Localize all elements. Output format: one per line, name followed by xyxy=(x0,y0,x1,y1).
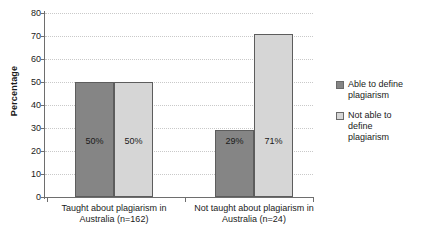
bar-value-label: 50% xyxy=(115,136,152,146)
x-axis-tick-mark xyxy=(313,197,314,202)
bar[interactable]: 29% xyxy=(215,130,254,197)
y-axis-tick-label: 40 xyxy=(31,100,41,110)
y-axis-tick-mark xyxy=(41,82,45,83)
x-axis-group-label: Not taught about plagiarism inAustralia … xyxy=(184,203,324,225)
y-axis-tick-mark xyxy=(41,13,45,14)
bar[interactable]: 50% xyxy=(114,82,153,197)
legend-label-able: Able to define plagiarism xyxy=(348,79,403,101)
y-axis-tick-mark xyxy=(41,36,45,37)
x-axis-group-label-line: Australia (n=162) xyxy=(44,214,184,225)
x-axis-group-label: Taught about plagiarism inAustralia (n=1… xyxy=(44,203,184,225)
y-axis-tick-mark xyxy=(41,128,45,129)
x-axis-tick-mark xyxy=(47,197,48,202)
y-axis-tick-label: 70 xyxy=(31,31,41,41)
gridline xyxy=(45,13,313,14)
y-axis-title: Percentage xyxy=(9,51,19,131)
y-axis-tick-label: 10 xyxy=(31,169,41,179)
x-axis-group-label-line: Australia (n=24) xyxy=(184,214,324,225)
legend-item-not-able[interactable]: Not able to define plagiarism xyxy=(336,110,422,143)
legend: Able to define plagiarism Not able to de… xyxy=(336,79,422,152)
y-axis-tick-label: 30 xyxy=(31,123,41,133)
y-axis-tick-label: 80 xyxy=(31,8,41,18)
y-axis-tick-label: 50 xyxy=(31,77,41,87)
bar-value-label: 71% xyxy=(255,136,292,146)
x-axis-line xyxy=(44,197,314,198)
y-axis-tick-mark xyxy=(41,197,45,198)
x-axis-group-label-line: Taught about plagiarism in xyxy=(44,203,184,214)
legend-swatch-icon-not-able xyxy=(336,112,344,120)
y-axis-tick-label: 20 xyxy=(31,146,41,156)
plot-area: 01020304050607080 50%50%29%71% xyxy=(45,13,313,197)
bar-value-label: 29% xyxy=(216,136,253,146)
y-axis-tick-mark xyxy=(41,59,45,60)
bar[interactable]: 71% xyxy=(254,34,293,197)
y-axis-tick-mark xyxy=(41,174,45,175)
x-axis-group-label-line: Not taught about plagiarism in xyxy=(184,203,324,214)
legend-item-able[interactable]: Able to define plagiarism xyxy=(336,79,422,101)
y-axis-tick-mark xyxy=(41,105,45,106)
legend-label-not-able: Not able to define plagiarism xyxy=(348,110,392,143)
x-axis-tick-mark xyxy=(185,197,186,202)
y-axis-tick-label: 60 xyxy=(31,54,41,64)
bar-chart: Percentage 01020304050607080 50%50%29%71… xyxy=(0,0,424,242)
bar[interactable]: 50% xyxy=(75,82,114,197)
bar-value-label: 50% xyxy=(76,136,113,146)
y-axis-tick-mark xyxy=(41,151,45,152)
legend-swatch-icon-able xyxy=(336,81,344,89)
